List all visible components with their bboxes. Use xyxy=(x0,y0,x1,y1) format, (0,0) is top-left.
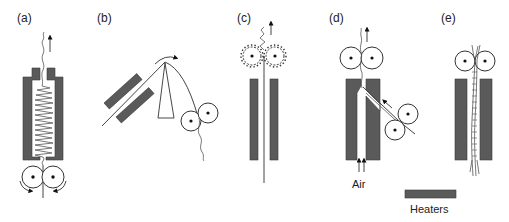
panel-e xyxy=(455,45,495,176)
panel-label-e: (e) xyxy=(441,11,456,25)
heater-left xyxy=(23,68,40,160)
heater-right xyxy=(46,68,63,160)
roller-axle xyxy=(483,59,486,62)
panel-d: Air xyxy=(340,28,418,190)
panel-b xyxy=(102,57,218,161)
panel-label-d: (d) xyxy=(329,11,344,25)
roller-axle xyxy=(206,111,209,114)
panel-label-c: (c) xyxy=(237,11,251,25)
roller-axle xyxy=(189,119,192,122)
gear-right xyxy=(264,45,286,67)
heater-right xyxy=(270,79,278,160)
heater-right xyxy=(480,79,492,160)
roller-axle xyxy=(370,56,373,59)
motion-arrow xyxy=(155,57,176,64)
texturing-processes-diagram: (a) (b) (c) (d) (e) xyxy=(0,0,509,222)
gear-left xyxy=(241,45,263,67)
roller-axle xyxy=(31,175,34,178)
yarn-out xyxy=(260,27,265,50)
heater-left xyxy=(455,79,467,160)
legend-heaters-label: Heaters xyxy=(410,203,449,215)
yarn-in xyxy=(102,62,165,126)
roller-axle xyxy=(463,59,466,62)
panel-label-b: (b) xyxy=(97,11,112,25)
air-label: Air xyxy=(352,178,366,190)
panel-a xyxy=(20,32,66,198)
legend: Heaters xyxy=(405,190,456,215)
panel-label-a: (a) xyxy=(17,11,32,25)
knife-edge xyxy=(158,63,174,118)
roller-axle xyxy=(51,175,54,178)
legend-heater-swatch xyxy=(405,190,456,198)
panel-c xyxy=(241,23,286,183)
feed-arrow xyxy=(384,101,392,108)
heater-left xyxy=(250,79,258,160)
jet-block-left xyxy=(346,79,361,160)
yarn-out xyxy=(198,118,204,161)
roller-axle xyxy=(349,56,352,59)
roller-axle xyxy=(406,112,409,115)
roller-axle xyxy=(393,128,396,131)
